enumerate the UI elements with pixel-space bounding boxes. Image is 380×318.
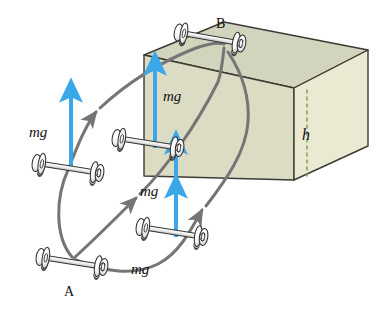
mg-label-left: mg bbox=[29, 124, 48, 140]
point-label-B: B bbox=[216, 16, 225, 31]
path-middle bbox=[74, 198, 136, 258]
dumbbell-A bbox=[34, 246, 109, 282]
physics-figure: h bbox=[0, 0, 380, 318]
mg-label-lower-front: mg bbox=[140, 183, 159, 199]
dumbbell-left-middle bbox=[30, 152, 105, 188]
height-label: h bbox=[302, 126, 310, 143]
point-label-A: A bbox=[64, 284, 75, 299]
dumbbell-lower-middle bbox=[134, 216, 209, 252]
mg-label-bottom: mg bbox=[131, 261, 150, 277]
mg-label-upper-front: mg bbox=[163, 88, 182, 104]
